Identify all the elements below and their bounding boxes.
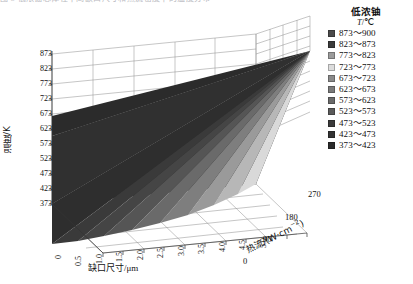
legend-entry-label: 623～673 (339, 84, 376, 95)
x-tick-8: 4.0 (219, 242, 227, 252)
legend-swatch-icon (328, 75, 335, 82)
legend-swatch-icon (328, 64, 335, 71)
legend-unit-value: /℃ (362, 17, 374, 27)
y-tick-9: 423 (40, 185, 52, 193)
y-tick-10: 373 (40, 200, 52, 208)
cutoff-caption-text: 图 5 低浓铀芯体在不同缺口尺寸和热流密度下的温度分布 (0, 0, 300, 3)
x-tick-5: 2.5 (157, 248, 165, 258)
legend-entry-label: 423～473 (339, 129, 376, 140)
legend-entry-list: 873～900823～873773～823723～773673～723623～6… (328, 28, 413, 151)
y-tick-3: 723 (40, 95, 52, 103)
z-tick-3: 270 (308, 190, 321, 199)
x-tick-1: 0.5 (75, 256, 83, 266)
figure-canvas: 图 5 低浓铀芯体在不同缺口尺寸和热流密度下的温度分布 (0, 0, 413, 284)
y-tick-8: 473 (40, 170, 52, 178)
legend-swatch-icon (328, 142, 335, 149)
legend-entry-label: 573～623 (339, 95, 376, 106)
legend-entry-label: 523～573 (339, 106, 376, 117)
legend-title: 低浓铀 (318, 6, 413, 17)
legend-entry: 823～873 (328, 39, 413, 50)
legend-entry-label: 673～723 (339, 73, 376, 84)
y-tick-2: 773 (40, 80, 52, 88)
y-tick-4: 673 (40, 110, 52, 118)
legend-entry-label: 373～423 (339, 140, 376, 151)
legend-swatch-icon (328, 131, 335, 138)
x-axis-title-unit: /μm (124, 263, 138, 273)
legend-entry-label: 473～523 (339, 118, 376, 129)
x-tick-6: 3.0 (178, 246, 186, 256)
y-tick-0: 873 (40, 50, 52, 58)
y-tick-6: 573 (40, 140, 52, 148)
legend-entry-label: 823～873 (339, 39, 376, 50)
legend-swatch-icon (328, 86, 335, 93)
legend-entry: 673～723 (328, 73, 413, 84)
legend-unit: T/℃ (318, 17, 413, 27)
legend-entry: 373～423 (328, 140, 413, 151)
legend: 低浓铀 T/℃ 873～900823～873773～823723～773673～… (318, 6, 413, 151)
legend-swatch-icon (328, 41, 335, 48)
legend-swatch-icon (328, 52, 335, 59)
legend-entry: 473～523 (328, 118, 413, 129)
legend-entry: 873～900 (328, 28, 413, 39)
x-tick-3: 1.5 (116, 252, 124, 262)
legend-entry: 523～573 (328, 106, 413, 117)
legend-swatch-icon (328, 108, 335, 115)
legend-entry-label: 773～823 (339, 50, 376, 61)
x-tick-4: 2.0 (137, 250, 145, 260)
cutoff-caption-strip: 图 5 低浓铀芯体在不同缺口尺寸和热流密度下的温度分布 (0, 0, 300, 7)
legend-entry: 723～773 (328, 62, 413, 73)
legend-swatch-icon (328, 120, 335, 127)
x-tick-7: 3.5 (198, 244, 206, 254)
legend-entry-label: 873～900 (339, 28, 376, 39)
legend-entry-label: 723～773 (339, 62, 376, 73)
x-tick-0: 0 (55, 255, 63, 259)
legend-swatch-icon (328, 30, 335, 37)
y-axis-title: 温度/K (2, 126, 12, 153)
x-axis-title: 缺口尺寸/μm (88, 263, 138, 273)
x-axis-title-cn: 缺口尺寸 (88, 263, 124, 273)
legend-entry: 423～473 (328, 129, 413, 140)
z-tick-0: 0 (243, 257, 247, 266)
legend-entry: 573～623 (328, 95, 413, 106)
y-tick-1: 823 (40, 65, 52, 73)
legend-swatch-icon (328, 97, 335, 104)
y-tick-7: 523 (40, 155, 52, 163)
legend-entry: 623～673 (328, 84, 413, 95)
legend-entry: 773～823 (328, 50, 413, 61)
y-tick-5: 623 (40, 125, 52, 133)
temperature-surface (52, 51, 310, 244)
